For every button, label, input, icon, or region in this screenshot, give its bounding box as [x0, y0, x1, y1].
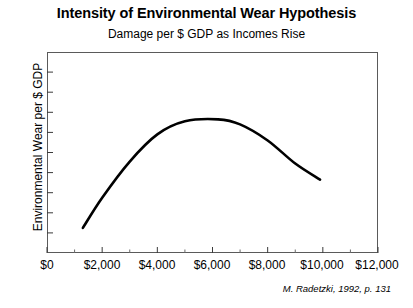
x-tick-label: $2,000: [84, 258, 121, 272]
x-tick-label: $10,000: [300, 258, 343, 272]
x-axis-tick-labels: $0$2,000$4,000$6,000$8,000$10,000$12,000: [0, 258, 413, 276]
x-tick-label: $8,000: [249, 258, 286, 272]
source-citation: M. Radetzki, 1992, p. 131: [283, 283, 391, 294]
chart-figure: Intensity of Environmental Wear Hypothes…: [0, 0, 413, 308]
chart-subtitle: Damage per $ GDP as Incomes Rise: [0, 27, 413, 41]
x-tick-label: $4,000: [139, 258, 176, 272]
y-axis-label: Environmental Wear per $ GDP: [31, 47, 45, 247]
x-tick-label: $12,000: [355, 258, 398, 272]
curve-plot: [47, 52, 378, 253]
environmental-wear-curve: [83, 119, 320, 228]
x-tick-label: $0: [40, 258, 53, 272]
chart-title: Intensity of Environmental Wear Hypothes…: [0, 5, 413, 21]
x-tick-label: $6,000: [194, 258, 231, 272]
